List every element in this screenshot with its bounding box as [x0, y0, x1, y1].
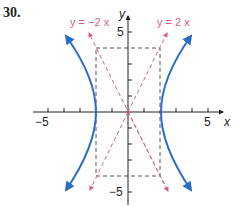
x-axis-label: x [223, 115, 231, 129]
x-tick-label-neg5: −5 [35, 115, 49, 129]
right-branch [161, 36, 191, 190]
y-tick-label-neg5: −5 [109, 185, 123, 199]
y-axis-label: y [118, 7, 126, 21]
left-branch [66, 36, 96, 190]
x-tick-label-pos5: 5 [204, 115, 211, 129]
asymptote-label-right: y = 2 x [157, 16, 190, 28]
y-tick-label-pos5: 5 [117, 25, 124, 39]
hyperbola-graph: −5 5 x 5 −5 y y = −2 x y = 2 x [0, 0, 239, 207]
asymptote-label-left: y = −2 x [70, 16, 110, 28]
